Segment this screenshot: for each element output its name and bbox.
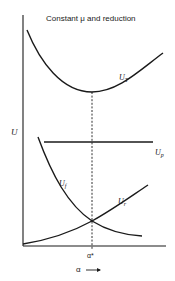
label-redundant-work: Ur [118, 191, 126, 207]
curve-friction-work [38, 137, 142, 236]
label-total-work: UT [119, 67, 128, 83]
work-components-diagram: Constant μ and reduction U UT Up Uf Ur α… [0, 0, 175, 281]
optimum-alpha-label: α* [87, 252, 94, 259]
y-axis-label: U [11, 128, 18, 137]
diagram-title: Constant μ and reduction [46, 15, 136, 23]
x-direction-arrow-head [97, 268, 101, 272]
label-friction-work: Uf [59, 173, 66, 189]
label-plastic-work: Up [155, 142, 164, 158]
diagram-canvas [0, 0, 175, 281]
x-axis-label: α [76, 266, 81, 274]
curve-total-work [27, 30, 163, 92]
